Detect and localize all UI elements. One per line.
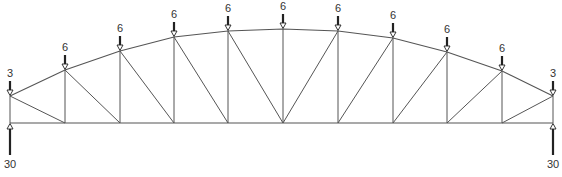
load-label: 6 — [117, 22, 123, 34]
load-arrow: 6 — [117, 22, 123, 51]
load-arrow: 6 — [335, 2, 341, 31]
reaction-label: 30 — [547, 158, 559, 170]
diagonal-member — [393, 52, 447, 123]
load-arrow: 3 — [7, 67, 13, 96]
load-arrow: 6 — [280, 0, 286, 29]
load-arrow-head-icon — [335, 25, 341, 31]
load-label: 6 — [62, 41, 68, 53]
truss-diagram: 36666666663 3030 — [0, 0, 562, 177]
load-arrow-head-icon — [117, 45, 123, 51]
load-label: 3 — [550, 67, 556, 79]
load-arrow-head-icon — [171, 31, 177, 37]
top-chord — [10, 29, 553, 96]
load-label: 6 — [390, 9, 396, 21]
load-arrow: 3 — [550, 67, 556, 96]
diagonal-member — [174, 37, 228, 123]
reaction-arrow: 30 — [4, 124, 16, 171]
load-arrow: 6 — [62, 41, 68, 70]
diagonal-member — [65, 70, 120, 123]
applied-loads: 36666666663 — [7, 0, 556, 96]
load-label: 6 — [280, 0, 286, 12]
load-arrow-head-icon — [444, 46, 450, 52]
diagonal-member — [502, 96, 553, 123]
load-arrow-head-icon — [499, 65, 505, 71]
diagonal-member — [120, 51, 174, 123]
load-arrow: 6 — [499, 42, 505, 71]
load-arrow: 6 — [171, 8, 177, 37]
load-arrow-head-icon — [62, 64, 68, 70]
support-reactions: 3030 — [4, 124, 559, 171]
reaction-label: 30 — [4, 158, 16, 170]
load-label: 6 — [171, 8, 177, 20]
load-arrow-head-icon — [280, 23, 286, 29]
load-arrow: 6 — [225, 2, 231, 31]
load-label: 6 — [335, 2, 341, 14]
load-label: 6 — [499, 42, 505, 54]
load-arrow: 6 — [390, 9, 396, 38]
diagonal-member — [447, 71, 502, 123]
reaction-arrow-head-icon — [550, 124, 556, 130]
truss-members — [10, 29, 553, 123]
load-arrow: 6 — [444, 23, 450, 52]
diagonal-member — [338, 38, 393, 123]
diagonal-member — [10, 96, 65, 123]
load-label: 6 — [225, 2, 231, 14]
reaction-arrow: 30 — [547, 124, 559, 171]
load-arrow-head-icon — [225, 25, 231, 31]
diagonal-member — [228, 31, 283, 123]
load-arrow-head-icon — [390, 32, 396, 38]
diagonal-member — [283, 31, 338, 123]
reaction-arrow-head-icon — [7, 124, 13, 130]
truss-canvas: 36666666663 3030 — [0, 0, 562, 177]
load-label: 3 — [7, 67, 13, 79]
load-label: 6 — [444, 23, 450, 35]
